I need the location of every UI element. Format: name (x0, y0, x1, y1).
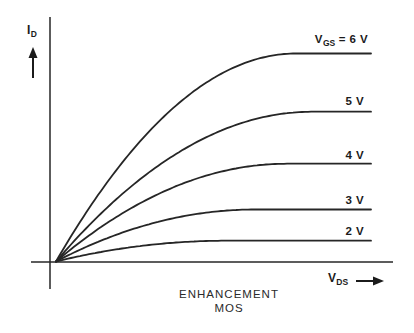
x-axis-label: VDS (328, 271, 348, 287)
caption-line-2: MOS (159, 301, 299, 315)
y-axis-arrow-icon (29, 47, 38, 78)
curve-vgs-3v (56, 210, 371, 262)
curve-label-vgs-5v: 5 V (346, 95, 364, 107)
mosfet-characteristics-figure: ID VDS VGS = 6 V 5 V 4 V 3 V 2 V ENHANCE… (0, 0, 414, 333)
vgs-subscript: GS (323, 38, 335, 48)
caption-line-1: ENHANCEMENT (159, 287, 299, 301)
curve-label-vgs-6v: VGS = 6 V (315, 33, 368, 48)
x-axis-arrow-icon (356, 277, 384, 286)
curve-label-vgs-4v: 4 V (346, 149, 364, 161)
vgs-symbol: V (315, 33, 323, 45)
curve-vgs-2v (56, 241, 371, 262)
vgs-value: = 6 V (335, 33, 368, 45)
x-axis-subscript: DS (336, 277, 348, 287)
y-axis-subscript: D (31, 29, 37, 39)
figure-caption: ENHANCEMENT MOS (159, 287, 299, 315)
curve-label-vgs-2v: 2 V (346, 225, 364, 237)
curve-vgs-6v (56, 54, 371, 262)
y-axis-label: ID (27, 23, 37, 39)
curve-label-vgs-3v: 3 V (346, 194, 364, 206)
plot-canvas (0, 0, 414, 333)
